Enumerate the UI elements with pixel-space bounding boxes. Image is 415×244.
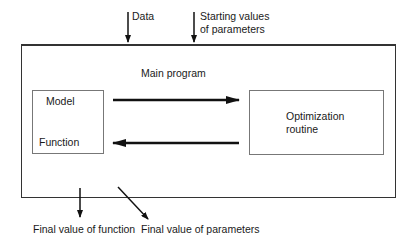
arrows-layer (0, 0, 415, 244)
final-parameters-arrow-icon (118, 187, 148, 219)
